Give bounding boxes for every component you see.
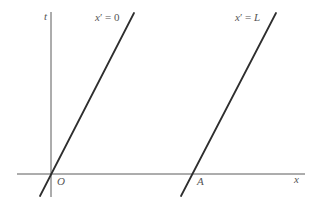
worldline-label-equals: = [242,11,254,23]
worldline-label-value: 0 [114,11,120,23]
t-axis-label: t [44,10,48,22]
worldline-label-x-prime-L: x′ = L [234,11,260,23]
worldline-label-value: L [253,11,260,23]
worldline-x-prime-L [181,13,276,196]
x-axis-label: x [293,173,299,185]
worldline-x-prime-0 [40,13,134,196]
origin-label: O [57,175,65,187]
point-a-label: A [196,175,204,187]
worldline-label-x-prime-0: x′ = 0 [94,11,120,23]
worldline-label-equals: = [102,11,114,23]
spacetime-diagram: t x O A x′ = 0 x′ = L [0,0,310,211]
